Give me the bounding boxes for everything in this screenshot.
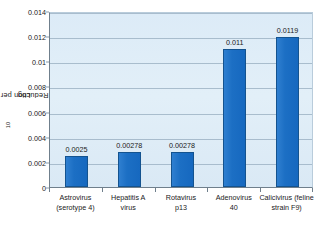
plot-area: 0.00250.002780.002780.0110.0119 xyxy=(49,12,313,188)
y-axis-tick-label: 0.01 xyxy=(14,58,46,67)
bar-chart-figure: Log10 Reduction per hour 00.0020.0040.00… xyxy=(0,0,322,225)
y-axis-tick-label: 0 xyxy=(14,184,46,193)
bar[interactable] xyxy=(223,49,246,187)
x-axis-category-label: Astrovirus(serotype 4) xyxy=(56,193,94,212)
bar-value-label: 0.0119 xyxy=(277,26,298,35)
x-axis-tick-mark xyxy=(207,188,208,192)
y-axis-tick-label: 0.012 xyxy=(14,33,46,42)
x-axis-tick-marks xyxy=(49,188,313,192)
x-axis-category-label: Rotavirusp13 xyxy=(166,193,196,212)
bar[interactable] xyxy=(65,156,88,187)
y-axis-tick-label: 0.004 xyxy=(14,133,46,142)
bar-value-label: 0.00278 xyxy=(116,141,142,150)
bar[interactable] xyxy=(118,152,141,187)
x-axis-category-label: Calicivirus (felinestrain F9) xyxy=(259,193,313,212)
y-axis-title-subscript: 10 xyxy=(6,121,12,127)
x-axis-tick-mark xyxy=(102,188,103,192)
bar-value-label: 0.011 xyxy=(226,38,243,47)
y-axis-tick-label: 0.002 xyxy=(14,158,46,167)
x-axis-tick-mark xyxy=(260,188,261,192)
bars-layer: 0.00250.002780.002780.0110.0119 xyxy=(50,13,312,187)
x-axis-tick-mark xyxy=(155,188,156,192)
y-axis-tick-label: 0.014 xyxy=(14,8,46,17)
y-axis-tick-labels: 00.0020.0040.0060.0080.010.0120.014 xyxy=(12,0,46,225)
bar-value-label: 0.00278 xyxy=(169,141,195,150)
x-axis-tick-mark xyxy=(312,188,313,192)
bar[interactable] xyxy=(276,37,299,187)
x-axis-tick-mark xyxy=(49,188,50,192)
x-axis-category-label: Adenovirus40 xyxy=(216,193,252,212)
bar-value-label: 0.0025 xyxy=(65,145,87,154)
x-axis-category-label: Hepatitis Avirus xyxy=(111,193,145,212)
y-axis-tick-label: 0.008 xyxy=(14,83,46,92)
y-axis-tick-label: 0.006 xyxy=(14,108,46,117)
x-axis-category-labels: Astrovirus(serotype 4)Hepatitis AvirusRo… xyxy=(49,193,313,223)
bar[interactable] xyxy=(171,152,194,187)
